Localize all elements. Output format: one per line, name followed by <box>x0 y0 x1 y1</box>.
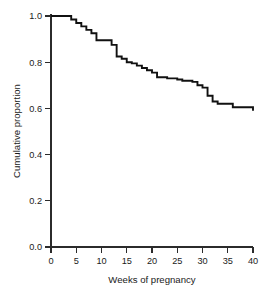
step-chart-svg: 1.0 0.8 0.6 0.4 0.2 0.0 0 5 10 15 20 25 <box>0 0 270 290</box>
y-axis-title: Cumulative proportion <box>11 84 22 178</box>
x-tick-label: 25 <box>172 256 182 266</box>
y-tick-label: 0.2 <box>29 196 42 206</box>
x-tick-label: 40 <box>248 256 258 266</box>
x-tick-label: 5 <box>74 256 79 266</box>
y-tick-label: 1.0 <box>29 11 42 21</box>
y-tick-label: 0.8 <box>29 58 42 68</box>
x-tick-label: 30 <box>197 256 207 266</box>
y-tick-label: 0.6 <box>29 104 42 114</box>
y-tick-label: 0.4 <box>29 150 42 160</box>
x-tick-label: 35 <box>223 256 233 266</box>
x-tick-label: 15 <box>122 256 132 266</box>
x-tick-label: 20 <box>147 256 157 266</box>
x-tick-label: 0 <box>48 256 53 266</box>
x-tick-label: 10 <box>96 256 106 266</box>
y-tick-label: 0.0 <box>29 242 42 252</box>
chart-figure: 1.0 0.8 0.6 0.4 0.2 0.0 0 5 10 15 20 25 <box>0 0 270 290</box>
x-axis-title: Weeks of pregnancy <box>108 274 195 285</box>
